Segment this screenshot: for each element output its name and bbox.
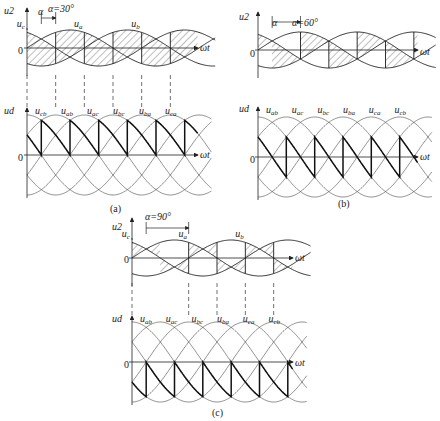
panel-a-top-plot: uaubuc <box>17 8 216 108</box>
panel-b-zero-label-bottom: 0 <box>250 154 255 165</box>
panel-a-ud-axis-label: ud <box>4 105 15 116</box>
panel-c-ud-axis-label: ud <box>112 313 123 324</box>
panel-b-ud-axis-label: ud <box>239 103 250 114</box>
panel-b-top-plot <box>255 12 436 78</box>
line-voltage-label-uba: uba <box>217 313 230 326</box>
line-voltage-label-ucb: ucb <box>35 105 47 118</box>
panel-a-zero-label-bottom: 0 <box>18 152 23 163</box>
line-voltage-label-uab: uab <box>140 313 153 326</box>
line-voltage-label-ubc: ubc <box>317 104 330 117</box>
line-voltage-label-uba: uba <box>343 104 356 117</box>
panel-b-u2-axis-label: u2 <box>239 11 249 22</box>
panel-c-bottom-plot: uabuacubcubaucaucb <box>129 313 307 405</box>
panel-b-bottom-plot: uabuacubcubaucaucb <box>255 104 432 200</box>
panel-b-wt-label-top: ωt <box>420 46 430 57</box>
panel-b-zero-label: 0 <box>250 48 255 59</box>
panel-b-alpha-value-label: α=60° <box>292 17 318 28</box>
phase-label-ua: ua <box>74 18 83 31</box>
line-voltage-label-uca: uca <box>165 105 177 118</box>
panel-c-alpha-value-label: α=90° <box>145 211 171 222</box>
panel-c-zero-label-bottom: 0 <box>124 359 129 370</box>
panel-c-wt-label-top: ωt <box>295 252 305 263</box>
line-voltage-label-uba: uba <box>139 105 152 118</box>
panel-a-caption: (a) <box>110 203 121 215</box>
line-voltage-label-ucb: ucb <box>394 104 406 117</box>
panel-c-caption: (c) <box>212 407 223 419</box>
panel-a-alpha-value-label: α=30° <box>48 3 74 14</box>
line-voltage-label-uca: uca <box>369 104 381 117</box>
line-voltage-label-ucb: ucb <box>268 313 280 326</box>
panel-b-caption: (b) <box>338 198 350 210</box>
panel-a-zero-label: 0 <box>18 45 23 56</box>
phase-label-ub: ub <box>235 228 244 241</box>
panel-a-bottom-plot: ucbuabuacubcubauca <box>24 105 211 198</box>
panel-c-wt-label-bottom: ωt <box>295 357 305 368</box>
panel-b-wt-label-bottom: ωt <box>420 151 430 162</box>
panel-b-alpha-60: uabuacubcubaucaucb u2 α α=60° 0 ωt ud 0 … <box>239 11 436 210</box>
phase-label-ub: ub <box>131 18 140 31</box>
line-voltage-label-uab: uab <box>266 104 279 117</box>
panel-c-u2-axis-label: u2 <box>112 221 122 232</box>
panel-a-u2-axis-label: u2 <box>4 5 14 16</box>
panel-a-alpha-label: α <box>38 6 44 17</box>
line-voltage-label-uac: uac <box>87 105 100 118</box>
panel-c-zero-label: 0 <box>124 254 129 265</box>
panel-b-alpha-label: α <box>272 17 278 28</box>
panel-a-wt-label-bottom: ωt <box>200 149 210 160</box>
panel-a-wt-label-top: ωt <box>200 42 210 53</box>
three-phase-rectifier-waveform-figure: uaubuc ucbuabuacubcubauca u2 α α=30° 0 ω… <box>0 0 440 421</box>
phase-label-ua: ua <box>179 228 188 241</box>
line-voltage-label-uac: uac <box>166 313 179 326</box>
phase-label-uc: uc <box>17 18 26 31</box>
line-voltage-label-ubc: ubc <box>191 313 204 326</box>
line-voltage-label-uca: uca <box>243 313 255 326</box>
line-voltage-label-uac: uac <box>292 104 305 117</box>
panel-c-top-plot: uaubuc <box>122 218 311 316</box>
panel-a-alpha-30: uaubuc ucbuabuacubcubauca u2 α α=30° 0 ω… <box>4 3 215 215</box>
panel-c-alpha-90: uaubuc uabuacubcubaucaucb u2 α=90° 0 ωt … <box>112 211 311 419</box>
phase-label-uc: uc <box>122 228 131 241</box>
line-voltage-label-ubc: ubc <box>113 105 126 118</box>
